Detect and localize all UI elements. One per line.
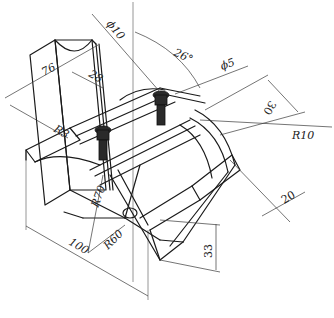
dim-phi10: ϕ10 [104, 18, 128, 43]
dim-76: 76 [39, 61, 57, 79]
right-curved-block [140, 110, 240, 246]
isometric-part-drawing: ϕ10 26° ϕ5 76 28 30 R10 R3 R70 R60 100 2… [0, 0, 334, 318]
dim-phi5: ϕ5 [219, 56, 237, 73]
phi5-leader [175, 66, 248, 94]
dim-20: 20 [279, 188, 298, 206]
r10-leader [200, 120, 332, 127]
top-plate [70, 88, 205, 185]
dim-30: 30 [260, 99, 278, 118]
dim-r70: R70 [88, 184, 108, 210]
dim-r10: R10 [291, 129, 314, 142]
dim100-line [26, 226, 148, 296]
dim-angle26: 26° [171, 46, 195, 66]
dim-r60: R60 [100, 227, 126, 253]
dim30-ext1 [205, 75, 268, 110]
dim33-ext2 [160, 260, 220, 272]
dim-100: 100 [67, 235, 92, 257]
dim-r3: R3 [51, 122, 72, 141]
bolt-right [153, 91, 169, 125]
dim20-ext [230, 160, 290, 222]
dim-33: 33 [202, 244, 215, 258]
